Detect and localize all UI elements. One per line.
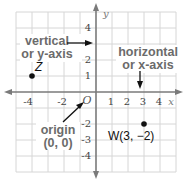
x-tick-labels: -4 -2 1 2 3 4 x — [23, 96, 174, 107]
y-tick-label: -2 — [81, 118, 91, 129]
callout-horizontal-line1: horizontal — [118, 45, 178, 59]
point-label: W(3, −2) — [108, 129, 154, 143]
coordinate-plane: -4 -2 1 2 3 4 x 4 2 1 -2 -3 -4 y O verti… — [0, 0, 183, 179]
y-axis-up-arrow-icon — [93, 3, 99, 11]
callout-origin-line1: origin — [41, 123, 76, 137]
x-tick-label: 3 — [140, 96, 146, 107]
arrow-right-icon — [85, 40, 93, 46]
y-axis-down-arrow-icon — [93, 171, 99, 179]
x-tick-label: 2 — [124, 96, 130, 107]
arrow-down-icon — [137, 81, 143, 89]
point-marker — [141, 121, 147, 127]
callout-vertical-line2: or y-axis — [21, 47, 72, 61]
x-tick-label: -2 — [57, 96, 67, 107]
point-label: Z — [34, 60, 43, 74]
callout-horizontal-axis: horizontal or x-axis — [116, 45, 180, 89]
callout-horizontal-line2: or x-axis — [122, 58, 173, 72]
y-tick-label: 4 — [85, 22, 91, 33]
x-axis-name: x — [168, 96, 174, 107]
y-tick-label: -4 — [81, 150, 91, 161]
callout-origin: origin (0, 0) — [36, 102, 84, 150]
y-tick-label: 1 — [85, 70, 91, 81]
callout-vertical-line1: vertical — [25, 34, 69, 48]
callout-vertical-axis: vertical or y-axis — [20, 34, 93, 62]
y-tick-labels: 4 2 1 -2 -3 -4 y — [81, 8, 109, 161]
point-marker — [29, 73, 35, 79]
x-axis-left-arrow-icon — [4, 89, 12, 95]
x-tick-label: 4 — [156, 96, 162, 107]
x-tick-label: 1 — [108, 96, 114, 107]
callout-origin-line2: (0, 0) — [43, 136, 72, 150]
origin-symbol: O — [82, 94, 91, 107]
x-axis — [4, 89, 183, 95]
y-tick-label: 2 — [85, 54, 91, 65]
y-axis — [93, 3, 99, 179]
x-tick-label: -4 — [23, 96, 33, 107]
y-tick-label: -3 — [81, 134, 91, 145]
y-axis-name: y — [102, 8, 109, 19]
x-axis-right-arrow-icon — [175, 89, 183, 95]
